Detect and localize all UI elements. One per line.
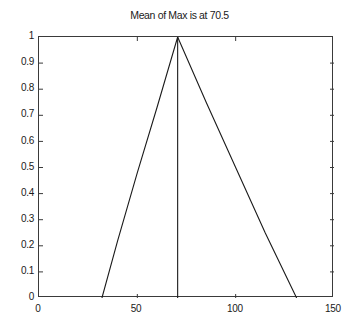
x-tick-label-50: 50	[116, 304, 156, 314]
figure-canvas: Mean of Max is at 70.5 1 0.9 0.8 0.7 0.6…	[0, 0, 359, 335]
x-axis-tick-labels: 0 50 100 150	[0, 0, 359, 335]
x-tick-label-150: 150	[313, 304, 353, 314]
x-tick-label-100: 100	[215, 304, 255, 314]
x-tick-label-0: 0	[18, 304, 58, 314]
